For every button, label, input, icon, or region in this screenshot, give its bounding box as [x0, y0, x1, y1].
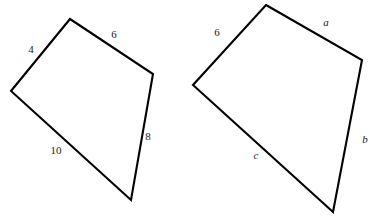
right-side-label-top-right: a — [323, 17, 329, 28]
left-side-label-bottom: 10 — [51, 145, 62, 156]
left-side-label-right: 8 — [145, 131, 151, 142]
right-side-label-right: b — [362, 134, 368, 145]
right-side-label-top-left: 6 — [214, 27, 220, 38]
figure-canvas — [0, 0, 370, 218]
geometry-figure: 6 4 8 10 a 6 b c — [0, 0, 370, 218]
right-side-label-bottom: c — [254, 150, 259, 161]
left-side-label-top-left: 4 — [28, 44, 34, 55]
left-side-label-top-right: 6 — [111, 29, 117, 40]
